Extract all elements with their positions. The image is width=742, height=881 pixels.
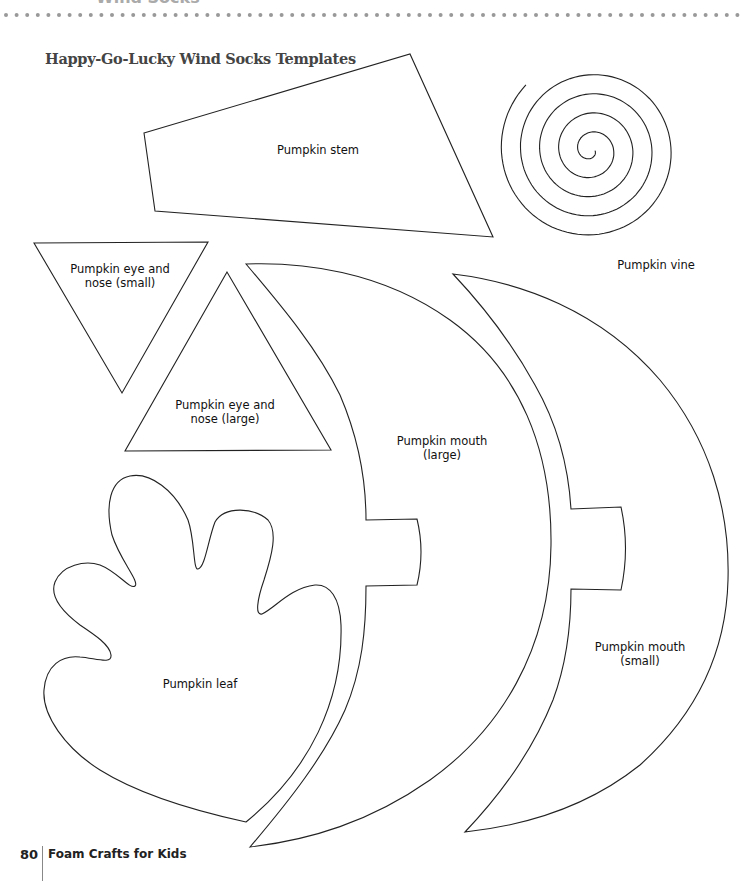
label-line: Pumpkin eye and bbox=[175, 398, 275, 412]
pumpkin-eye-nose-small-label: Pumpkin eye and nose (small) bbox=[70, 262, 170, 290]
pumpkin-mouth-small-shape bbox=[453, 274, 728, 832]
pumpkin-stem-label: Pumpkin stem bbox=[277, 143, 359, 157]
label-line: Pumpkin eye and bbox=[70, 262, 170, 276]
book-title: Foam Crafts for Kids bbox=[48, 847, 187, 861]
label-line: Pumpkin mouth bbox=[595, 640, 686, 654]
label-line: (large) bbox=[397, 448, 488, 462]
pumpkin-vine-spiral bbox=[501, 75, 671, 235]
pumpkin-mouth-large-label: Pumpkin mouth (large) bbox=[397, 434, 488, 462]
label-line: Pumpkin mouth bbox=[397, 434, 488, 448]
label-line: (small) bbox=[595, 654, 686, 668]
pumpkin-mouth-small-label: Pumpkin mouth (small) bbox=[595, 640, 686, 668]
pumpkin-leaf-shape bbox=[44, 475, 341, 822]
pumpkin-leaf-label: Pumpkin leaf bbox=[163, 677, 238, 691]
pumpkin-mouth-large-shape bbox=[246, 264, 551, 847]
pumpkin-vine-label: Pumpkin vine bbox=[617, 258, 695, 272]
label-line: nose (small) bbox=[70, 276, 170, 290]
footer-divider bbox=[42, 846, 43, 881]
page-number: 80 bbox=[20, 847, 38, 862]
label-line: nose (large) bbox=[175, 412, 275, 426]
pumpkin-eye-nose-large-label: Pumpkin eye and nose (large) bbox=[175, 398, 275, 426]
